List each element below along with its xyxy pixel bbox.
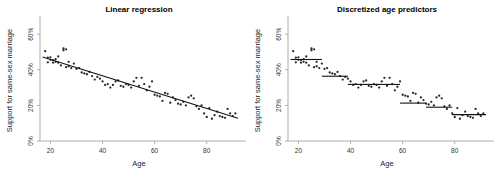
data-point	[81, 71, 83, 73]
data-point	[305, 55, 307, 57]
data-point	[161, 100, 163, 102]
data-point	[469, 116, 471, 118]
data-point	[404, 94, 406, 96]
data-point	[435, 96, 437, 98]
panel-discretized-age-predictors: Discretized age predictors0%20%40%60%204…	[248, 0, 496, 177]
x-tick-label: 20	[295, 147, 303, 154]
data-point	[300, 62, 302, 64]
y-tick-label: 20%	[27, 99, 34, 112]
data-point	[177, 102, 179, 104]
data-point	[308, 64, 310, 66]
x-tick-label: 80	[451, 147, 459, 154]
data-point	[213, 114, 215, 116]
data-point	[99, 78, 101, 80]
data-point	[133, 80, 135, 82]
data-point	[310, 49, 312, 51]
plot-svg: Linear regression0%20%40%60%20406080AgeS…	[0, 0, 248, 177]
data-point	[381, 80, 383, 82]
data-point	[47, 61, 49, 63]
data-point	[190, 94, 192, 96]
data-point	[44, 50, 46, 52]
data-point	[54, 58, 56, 60]
data-point	[234, 112, 236, 114]
data-point	[187, 96, 189, 98]
data-point	[203, 112, 205, 114]
x-tick-label: 40	[99, 147, 107, 154]
data-point	[433, 104, 435, 106]
data-point	[316, 65, 318, 67]
data-point	[365, 79, 367, 81]
panel-linear-regression: Linear regression0%20%40%60%20406080AgeS…	[0, 0, 248, 177]
y-tick-label: 0%	[27, 136, 34, 146]
data-point	[224, 117, 226, 119]
data-point	[362, 80, 364, 82]
data-point	[70, 67, 72, 69]
y-tick-label: 0%	[275, 136, 282, 146]
data-point	[474, 108, 476, 110]
data-point	[295, 57, 297, 59]
data-point	[60, 64, 62, 66]
data-point	[94, 78, 96, 80]
x-tick-label: 60	[151, 147, 159, 154]
data-point	[86, 73, 88, 75]
data-point	[454, 116, 456, 118]
data-point	[368, 85, 370, 87]
data-point	[396, 86, 398, 88]
data-point	[52, 62, 54, 64]
data-point	[107, 83, 109, 85]
data-point	[412, 92, 414, 94]
data-point	[143, 83, 145, 85]
data-point	[83, 72, 85, 74]
data-point	[331, 72, 333, 74]
data-point	[422, 99, 424, 101]
data-point	[480, 115, 482, 117]
data-point	[459, 118, 461, 120]
data-point	[428, 103, 430, 105]
data-point	[446, 108, 448, 110]
data-point	[342, 78, 344, 80]
data-point	[386, 85, 388, 87]
data-point	[153, 94, 155, 96]
data-point	[441, 97, 443, 99]
data-point	[399, 80, 401, 82]
data-point	[57, 55, 59, 57]
x-axis-label: Age	[380, 159, 393, 168]
data-point	[91, 75, 93, 77]
y-axis-label: Support for same-sex marriage	[5, 29, 14, 132]
data-point	[156, 94, 158, 96]
data-point	[120, 85, 122, 87]
data-point	[467, 115, 469, 117]
data-point	[336, 71, 338, 73]
y-tick-label: 20%	[275, 99, 282, 112]
data-point	[130, 86, 132, 88]
data-point	[167, 93, 169, 95]
data-point	[394, 89, 396, 91]
data-point	[323, 68, 325, 70]
data-point	[464, 110, 466, 112]
data-point	[68, 61, 70, 63]
data-point	[164, 92, 166, 94]
plot-svg: Discretized age predictors0%20%40%60%204…	[248, 0, 496, 177]
data-point	[388, 77, 390, 79]
data-point	[420, 96, 422, 98]
data-point	[206, 116, 208, 118]
data-point	[409, 100, 411, 102]
scatter-points	[292, 47, 484, 120]
data-point	[430, 101, 432, 103]
data-point	[302, 61, 304, 63]
data-point	[292, 50, 294, 52]
data-point	[96, 76, 98, 78]
data-point	[383, 77, 385, 79]
data-point	[316, 61, 318, 63]
data-point	[211, 118, 213, 120]
data-point	[49, 56, 51, 58]
data-point	[104, 84, 106, 86]
data-point	[297, 56, 299, 58]
y-tick-label: 60%	[275, 28, 282, 41]
data-point	[334, 73, 336, 75]
data-point	[151, 80, 153, 82]
data-point	[370, 86, 372, 88]
data-point	[329, 71, 331, 73]
data-point	[415, 93, 417, 95]
data-point	[193, 97, 195, 99]
